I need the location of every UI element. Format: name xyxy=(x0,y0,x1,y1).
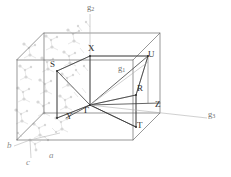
label-g2: g2 xyxy=(87,3,94,12)
crystal-structure-overlay xyxy=(16,22,92,150)
b-axis-line xyxy=(14,140,30,146)
label-g3: g3 xyxy=(208,110,215,119)
label-point-s: S xyxy=(50,60,55,69)
crystal-structure-atoms xyxy=(14,21,93,152)
label-axis-a: a xyxy=(49,151,54,160)
a-axis-line xyxy=(30,133,60,140)
label-axis-b: b xyxy=(7,141,12,150)
label-point-r: R xyxy=(137,84,143,93)
label-point-u: U xyxy=(148,50,155,59)
label-point-t: T xyxy=(137,121,143,130)
marker-gamma xyxy=(89,104,91,106)
label-point-z: Z xyxy=(155,100,161,109)
label-point-gamma: Γ xyxy=(84,106,89,115)
label-point-x: X xyxy=(88,44,95,53)
marker-r xyxy=(135,94,137,96)
marker-y xyxy=(56,117,58,119)
g3-line xyxy=(90,105,207,118)
brillouin-zone-svg xyxy=(0,0,231,177)
marker-s xyxy=(56,70,58,72)
label-point-y: Y xyxy=(66,112,73,121)
label-axis-c: c xyxy=(26,158,30,167)
figure-canvas: g2 g1 g3 Γ S X U R Z T Y b c a xyxy=(0,0,231,177)
reciprocal-vector-lines xyxy=(90,14,207,118)
label-g1: g1 xyxy=(118,64,125,73)
c-axis-line xyxy=(30,140,31,158)
marker-x xyxy=(89,55,91,57)
